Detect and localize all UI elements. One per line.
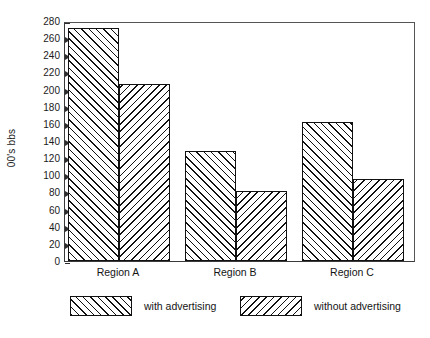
y-axis-tick-label: 80: [49, 188, 60, 198]
y-axis-tick-label: 140: [43, 137, 60, 147]
bar: [353, 179, 404, 261]
y-axis-tick-label: 120: [43, 154, 60, 164]
y-axis-tick-label: 180: [43, 103, 60, 113]
y-axis-tick-label: 260: [43, 34, 60, 44]
y-axis-tick-label: 280: [43, 17, 60, 27]
y-axis-tick-label: 160: [43, 120, 60, 130]
bar: [185, 151, 236, 261]
y-axis-tick-label: 220: [43, 68, 60, 78]
legend-swatch: [240, 296, 302, 316]
bar-chart: 00's bbs 0204060801001201401601802002202…: [0, 0, 430, 338]
x-axis-category-label: Region A: [61, 266, 175, 278]
x-axis-category-label: Region C: [295, 266, 409, 278]
x-axis-category-label: Region B: [178, 266, 292, 278]
legend-label: without advertising: [314, 300, 401, 312]
y-axis-title: 00's bbs: [6, 108, 17, 188]
y-axis-tick-mark: [65, 263, 70, 264]
legend-label: with advertising: [144, 300, 216, 312]
y-axis-tick-label: 200: [43, 86, 60, 96]
bar: [236, 191, 287, 261]
y-axis-tick-label: 20: [49, 240, 60, 250]
y-axis-tick-label: 100: [43, 171, 60, 181]
y-axis-tick-mark: [65, 23, 70, 24]
y-axis-tick-label: 0: [54, 257, 60, 267]
y-axis-tick-label: 40: [49, 223, 60, 233]
bar: [68, 28, 119, 261]
bar: [119, 84, 170, 261]
y-axis-tick-label: 240: [43, 51, 60, 61]
plot-area: [64, 22, 415, 262]
plot-inner: [65, 23, 414, 261]
y-axis-tick-label: 60: [49, 206, 60, 216]
legend-swatch: [70, 296, 132, 316]
y-axis-tick-labels: 020406080100120140160180200220240260280: [28, 0, 60, 338]
bar: [302, 122, 353, 261]
